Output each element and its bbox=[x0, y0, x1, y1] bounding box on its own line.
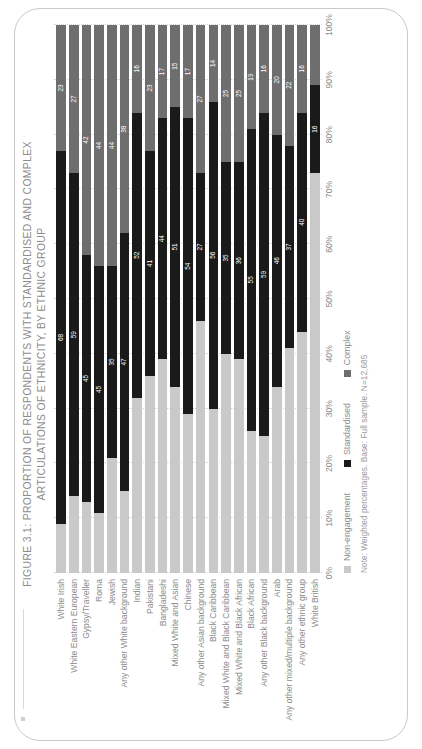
bar-segment-standardised: 68 bbox=[56, 151, 66, 524]
bar-segment-complex: 23 bbox=[145, 25, 155, 151]
bar-segment-standardised: 45 bbox=[94, 266, 104, 513]
x-axis-tick-label: 30% bbox=[324, 400, 334, 417]
title-rule-divider bbox=[23, 609, 24, 709]
bar-value-label: 44 bbox=[96, 142, 102, 149]
bar-value-label: 22 bbox=[286, 81, 292, 88]
bar-value-label: 20 bbox=[274, 76, 280, 83]
bar-segment-complex bbox=[310, 25, 320, 85]
bar-value-label: 25 bbox=[236, 89, 242, 96]
bar-segment-standardised: 35 bbox=[107, 266, 117, 458]
bar-segment-non_engagement bbox=[132, 397, 142, 572]
bar-value-label: 16 bbox=[261, 65, 267, 72]
category-label: White British bbox=[309, 573, 321, 723]
bar-segment-complex: 27 bbox=[69, 25, 79, 173]
x-axis-tick-label: 50% bbox=[324, 290, 334, 307]
bar-value-label: 16 bbox=[299, 65, 305, 72]
bar-segment-standardised: 35 bbox=[221, 162, 231, 354]
bar-segment-non_engagement bbox=[196, 320, 206, 572]
bar-row: 4016 bbox=[296, 25, 308, 573]
bar-value-label: 56 bbox=[210, 251, 216, 258]
bar-segment-complex: 20 bbox=[272, 25, 282, 135]
x-axis-tick-label: 90% bbox=[324, 71, 334, 88]
bar-segment-complex: 23 bbox=[56, 25, 66, 151]
bar-row: 5216 bbox=[131, 25, 143, 573]
x-axis-tick-label: 70% bbox=[324, 180, 334, 197]
bar-row: 4738 bbox=[118, 25, 130, 573]
bar-row: 4123 bbox=[144, 25, 156, 573]
figure-title-line-1: FIGURE 3.1: PROPORTION OF RESPONDENTS WI… bbox=[21, 35, 35, 693]
bar-segment-complex: 25 bbox=[234, 25, 244, 162]
category-label: Mixed White and Asian bbox=[169, 573, 181, 723]
bar-segment-standardised: 56 bbox=[209, 101, 219, 408]
bar-segment-standardised: 54 bbox=[183, 118, 193, 414]
category-axis-labels: White IrishWhite Eastern EuropeanGypsy/T… bbox=[54, 573, 322, 723]
x-axis-tick-label: 40% bbox=[324, 345, 334, 362]
bar-segment-standardised: 27 bbox=[196, 172, 206, 320]
bar-value-label: 23 bbox=[147, 84, 153, 91]
bar-segment-complex: 14 bbox=[209, 25, 219, 102]
bar-value-label: 15 bbox=[172, 62, 178, 69]
category-label: Any other ethnic group bbox=[296, 573, 308, 723]
figure-title-line-2: ARTICULATIONS OF ETHNICITY, BY ETHNIC GR… bbox=[35, 35, 49, 693]
bar-segment-complex: 27 bbox=[196, 25, 206, 173]
x-axis-tick-label: 0% bbox=[324, 566, 334, 578]
category-label: Indian bbox=[131, 573, 143, 723]
bar-row: 5417 bbox=[182, 25, 194, 573]
bar-segment-non_engagement bbox=[170, 386, 180, 572]
bar-segment-standardised: 16 bbox=[310, 85, 320, 173]
bar-value-label: 45 bbox=[83, 374, 89, 381]
bar-segment-non_engagement bbox=[310, 172, 320, 572]
bar-segment-non_engagement bbox=[221, 353, 231, 572]
bar-segment-non_engagement bbox=[247, 430, 257, 572]
bar-value-label: 55 bbox=[248, 276, 254, 283]
bar-segment-standardised: 59 bbox=[259, 112, 269, 435]
bar-segment-non_engagement bbox=[94, 512, 104, 572]
category-label: Roma bbox=[93, 573, 105, 723]
bar-segment-standardised: 55 bbox=[247, 129, 257, 430]
bar-segment-non_engagement bbox=[158, 359, 168, 573]
bar-value-label: 46 bbox=[274, 257, 280, 264]
bar-segment-standardised: 44 bbox=[158, 118, 168, 359]
bar-segment-standardised: 47 bbox=[120, 233, 130, 491]
category-label: White Eastern European bbox=[68, 573, 80, 723]
bar-row: 5916 bbox=[258, 25, 270, 573]
bar-segment-standardised: 45 bbox=[82, 255, 92, 502]
legend-label: Complex bbox=[342, 330, 352, 365]
bar-segment-standardised: 40 bbox=[297, 112, 307, 331]
bar-value-label: 59 bbox=[261, 270, 267, 277]
bullet-marker-icon bbox=[21, 717, 25, 721]
legend-item[interactable]: Non-engagement bbox=[342, 493, 352, 573]
bar-value-label: 45 bbox=[96, 385, 102, 392]
bar-segment-complex: 17 bbox=[183, 25, 193, 118]
x-axis-tick-label: 80% bbox=[324, 126, 334, 143]
bar-segment-complex: 16 bbox=[297, 25, 307, 113]
legend-label: Standardised bbox=[342, 403, 352, 455]
bar-value-label: 16 bbox=[312, 125, 318, 132]
category-label: Black Caribbean bbox=[207, 573, 219, 723]
bar-value-label: 23 bbox=[58, 84, 64, 91]
bar-value-label: 59 bbox=[71, 331, 77, 338]
bar-value-label: 35 bbox=[109, 358, 115, 365]
bar-value-label: 68 bbox=[58, 333, 64, 340]
bar-segment-non_engagement bbox=[107, 457, 117, 572]
legend-item[interactable]: Complex bbox=[342, 330, 352, 377]
bar-value-label: 36 bbox=[236, 257, 242, 264]
category-label: Mixed White and Black Caribbean bbox=[220, 573, 232, 723]
bar-segment-non_engagement bbox=[297, 331, 307, 572]
bar-row: 5115 bbox=[169, 25, 181, 573]
legend-item[interactable]: Standardised bbox=[342, 403, 352, 467]
category-label: Pakistani bbox=[144, 573, 156, 723]
bar-segment-standardised: 41 bbox=[145, 151, 155, 376]
bar-value-label: 27 bbox=[197, 95, 203, 102]
bar-value-label: 25 bbox=[223, 89, 229, 96]
category-label: Jewish bbox=[106, 573, 118, 723]
bar-value-label: 37 bbox=[286, 243, 292, 250]
legend-swatch-icon bbox=[344, 460, 351, 467]
category-label: Any other White background bbox=[118, 573, 130, 723]
bar-row: 2727 bbox=[195, 25, 207, 573]
bar-segment-complex: 25 bbox=[221, 25, 231, 162]
plot-area: White IrishWhite Eastern EuropeanGypsy/T… bbox=[54, 25, 322, 723]
bar-value-label: 51 bbox=[172, 243, 178, 250]
bar-segment-non_engagement bbox=[209, 408, 219, 572]
bar-segment-complex: 22 bbox=[285, 25, 295, 146]
